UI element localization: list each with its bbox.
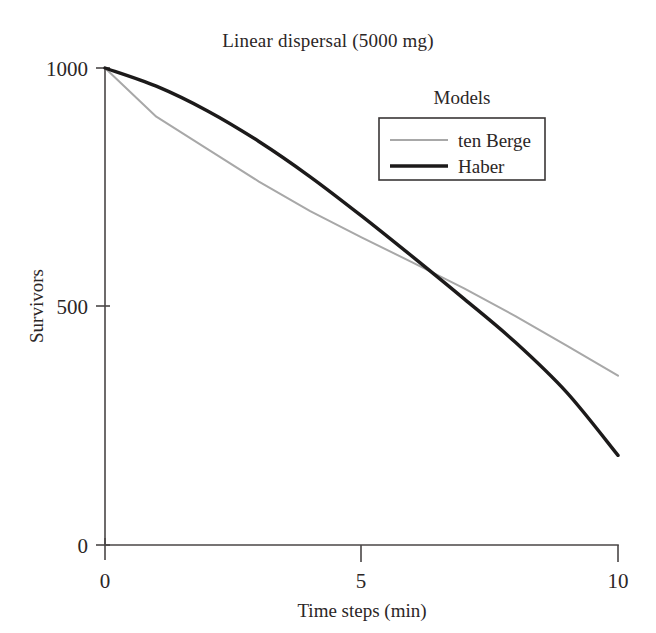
y-tick-label-0: 0	[78, 534, 89, 558]
legend-label-ten-berge: ten Berge	[458, 130, 531, 151]
y-tick-label-1000: 1000	[46, 57, 88, 81]
x-tick-label-0: 0	[100, 569, 111, 593]
chart-page: Linear dispersal (5000 mg) 1000 500 0 0 …	[0, 0, 656, 633]
series-group	[105, 68, 618, 455]
legend: Models ten Berge Haber	[379, 87, 545, 180]
series-line-ten-berge	[105, 68, 618, 376]
legend-title: Models	[434, 87, 491, 108]
series-line-haber	[105, 68, 618, 455]
x-axis-title: Time steps (min)	[297, 600, 426, 622]
line-chart-plot: 1000 500 0 0 5 10 Time steps (min) Survi…	[0, 0, 656, 633]
x-tick-label-10: 10	[608, 569, 629, 593]
y-axis-title: Survivors	[26, 269, 47, 343]
x-tick-label-5: 5	[356, 569, 367, 593]
legend-label-haber: Haber	[458, 156, 505, 177]
y-tick-label-500: 500	[57, 295, 89, 319]
